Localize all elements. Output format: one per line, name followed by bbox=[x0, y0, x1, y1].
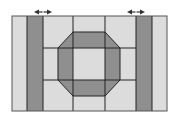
fills-layer bbox=[12, 16, 167, 111]
arrow-head-right bbox=[140, 10, 145, 15]
arrows-layer bbox=[34, 10, 145, 15]
arrow-head-left bbox=[34, 10, 39, 15]
arrow-head-left bbox=[127, 10, 132, 15]
quilt-diagram bbox=[0, 0, 174, 117]
left-strip-arrow-icon bbox=[34, 10, 52, 15]
right-strip-arrow-icon bbox=[127, 10, 145, 15]
arrow-head-right bbox=[47, 10, 52, 15]
center-square bbox=[73, 48, 105, 80]
dark-strip-2 bbox=[136, 16, 152, 111]
dark-strip-1 bbox=[27, 16, 43, 111]
